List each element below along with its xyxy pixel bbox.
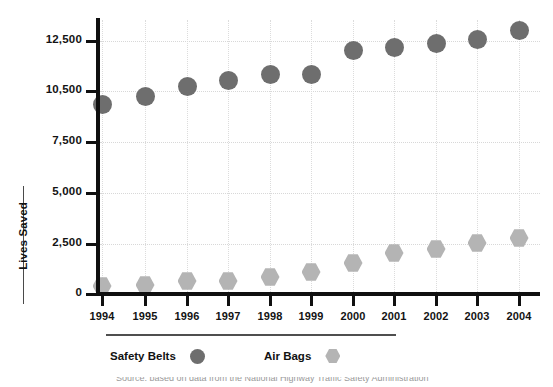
gridline-vertical: [270, 20, 272, 292]
x-axis-tick: [186, 296, 189, 306]
data-point-safety-belts[interactable]: [468, 30, 487, 49]
data-point-safety-belts[interactable]: [302, 65, 321, 84]
chart-container: Lives Saved 12,50010,5007,5005,0002,5000…: [0, 0, 553, 387]
y-axis-tick-label: 7,500: [4, 134, 82, 146]
gridline-vertical: [145, 20, 147, 292]
data-point-safety-belts[interactable]: [136, 87, 155, 106]
data-point-safety-belts[interactable]: [510, 21, 529, 40]
legend-entry-air-bags[interactable]: Air Bags: [264, 344, 340, 368]
data-point-air-bags[interactable]: [344, 254, 363, 273]
x-axis-tick: [435, 296, 438, 306]
x-axis-tick: [352, 296, 355, 306]
data-point-air-bags[interactable]: [468, 234, 487, 253]
x-axis-tick-label: 1995: [121, 310, 169, 322]
gridline-horizontal: [100, 142, 540, 144]
figure-caption-clipped: Source: based on data from the National …: [116, 377, 476, 387]
data-point-safety-belts[interactable]: [261, 65, 280, 84]
gridline-vertical: [187, 20, 189, 292]
x-axis-tick: [476, 296, 479, 306]
data-point-air-bags[interactable]: [427, 240, 446, 259]
gridline-vertical: [353, 20, 355, 292]
figure-caption-text: Source: based on data from the National …: [116, 377, 476, 383]
gridline-vertical: [519, 20, 521, 292]
y-axis-tick-label: 0: [4, 286, 82, 298]
x-axis-spine: [96, 292, 540, 296]
y-axis-tick-label: 2,500: [4, 236, 82, 248]
x-axis-tick: [518, 296, 521, 306]
legend-label-safety-belts: Safety Belts: [110, 350, 176, 362]
legend-entry-safety-belts[interactable]: Safety Belts: [110, 344, 205, 368]
data-point-air-bags[interactable]: [178, 272, 197, 291]
legend-divider: [106, 334, 396, 336]
gridline-vertical: [228, 20, 230, 292]
data-point-safety-belts[interactable]: [385, 38, 404, 57]
legend-label-air-bags: Air Bags: [264, 350, 311, 362]
gridline-vertical: [311, 20, 313, 292]
x-axis-tick: [393, 296, 396, 306]
gridline-horizontal: [100, 91, 540, 93]
data-point-safety-belts[interactable]: [427, 34, 446, 53]
x-axis-tick-label: 2001: [370, 310, 418, 322]
x-axis-tick-label: 1997: [204, 310, 252, 322]
x-axis-tick-label: 2004: [495, 310, 543, 322]
data-point-safety-belts[interactable]: [219, 71, 238, 90]
gridline-vertical: [102, 20, 104, 292]
x-axis-tick: [144, 296, 147, 306]
x-axis-tick: [101, 296, 104, 306]
y-axis-spine: [96, 18, 100, 296]
x-axis-tick: [269, 296, 272, 306]
data-point-safety-belts[interactable]: [178, 77, 197, 96]
x-axis-tick-label: 2003: [453, 310, 501, 322]
data-point-air-bags[interactable]: [261, 268, 280, 287]
y-axis-tick-label: 10,500: [4, 83, 82, 95]
x-axis-tick: [310, 296, 313, 306]
y-axis-tick-label: 12,500: [4, 33, 82, 45]
x-axis-tick: [227, 296, 230, 306]
data-point-safety-belts[interactable]: [344, 41, 363, 60]
y-axis-tick-label: 5,000: [4, 185, 82, 197]
data-point-air-bags[interactable]: [302, 263, 321, 282]
legend-row: Safety Belts Air Bags: [106, 344, 396, 368]
data-point-air-bags[interactable]: [385, 244, 404, 263]
hexagon-marker-icon: [325, 349, 340, 364]
data-point-air-bags[interactable]: [219, 272, 238, 291]
circle-marker-icon: [190, 349, 205, 364]
x-axis-tick-label: 1999: [287, 310, 335, 322]
x-axis-tick-label: 1994: [78, 310, 126, 322]
gridline-horizontal: [100, 193, 540, 195]
